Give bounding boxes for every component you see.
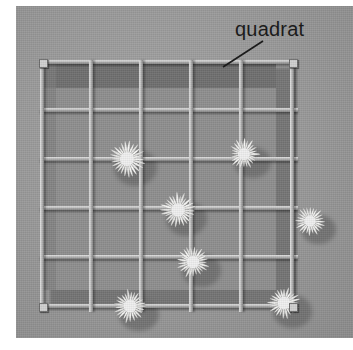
leader-line-icon <box>221 39 265 69</box>
quadrat-corner-post-3 <box>39 303 48 312</box>
quadrat-label: quadrat <box>235 18 304 41</box>
flower-4 <box>167 236 219 288</box>
quadrat-corner-post-1 <box>39 59 48 68</box>
quadrat-corner-post-2 <box>289 59 298 68</box>
quadrat-wire-vertical-2 <box>89 60 93 312</box>
photograph: quadrat <box>16 6 353 338</box>
flower-7 <box>286 197 334 245</box>
quadrat-wire-vertical-1 <box>40 60 44 312</box>
flower-1 <box>98 130 156 188</box>
figure-scene: quadrat <box>0 0 353 350</box>
flower-2 <box>219 129 269 179</box>
quadrat-frame[interactable] <box>38 58 282 296</box>
quadrat-corner-post-4 <box>289 303 298 312</box>
flower-5 <box>103 279 157 333</box>
quadrat-wire-vertical-6 <box>290 60 294 312</box>
flower-3 <box>150 182 206 238</box>
flower-6 <box>258 277 310 329</box>
quadrat-wire-vertical-5 <box>239 60 243 312</box>
quadrat-wire-horizontal-2 <box>40 108 298 112</box>
